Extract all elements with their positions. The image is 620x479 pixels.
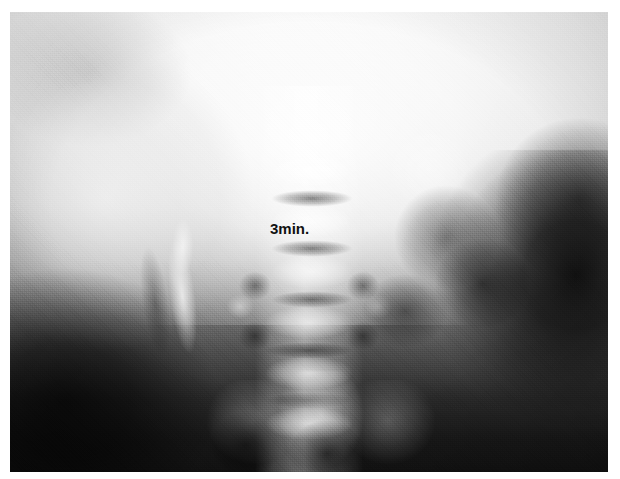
transverse-process bbox=[225, 293, 255, 321]
contrast-filled-collecting-system bbox=[145, 230, 215, 374]
renal-pelvis-contrast bbox=[165, 214, 201, 278]
sacrum-pelvis bbox=[273, 371, 369, 472]
pedicle-shadow bbox=[345, 320, 381, 352]
right-bowel-gas-shadow-upper bbox=[464, 104, 608, 288]
bowel-loop-shadow bbox=[387, 178, 507, 298]
disc-space bbox=[267, 237, 357, 260]
film-vignette bbox=[10, 12, 608, 472]
disc-space bbox=[267, 288, 357, 311]
lumbar-spine-column bbox=[255, 86, 363, 472]
iliac-bone-left bbox=[189, 380, 297, 472]
transverse-process bbox=[363, 293, 393, 321]
film-grain-texture-diagonal bbox=[10, 12, 608, 472]
disc-space bbox=[267, 187, 357, 210]
timing-annotation-label: 3min. bbox=[270, 220, 309, 238]
vertebral-body bbox=[261, 302, 357, 343]
film-grain-texture bbox=[10, 12, 608, 472]
left-lower-quadrant-gas bbox=[10, 251, 237, 472]
vertebral-body bbox=[267, 251, 357, 292]
upper-abdomen-bright-field bbox=[10, 12, 608, 325]
disc-space bbox=[261, 389, 357, 412]
right-bowel-gas-shadow bbox=[405, 150, 608, 435]
pedicle-shadow bbox=[345, 270, 381, 302]
pedicle-shadow bbox=[237, 270, 273, 302]
lower-bowel-gas-shadow bbox=[207, 408, 285, 472]
radiograph-page: 3min. bbox=[0, 0, 620, 479]
vertebral-body bbox=[267, 150, 357, 191]
radiograph-plate bbox=[10, 12, 608, 472]
iliac-bone-right bbox=[345, 380, 453, 472]
ureter-rim-shadow bbox=[121, 240, 179, 364]
disc-space bbox=[261, 339, 357, 362]
lower-bowel-gas-shadow bbox=[285, 417, 369, 472]
bowel-loop-shadow bbox=[357, 270, 453, 353]
vertebral-body bbox=[261, 352, 357, 393]
rib-edge-shadow bbox=[10, 12, 201, 150]
pedicle-shadow bbox=[237, 320, 273, 352]
base-tone-ramp bbox=[10, 12, 608, 472]
left-flank-soft-tissue bbox=[10, 40, 273, 371]
vertebral-body bbox=[261, 403, 357, 444]
right-renal-shadow bbox=[381, 122, 477, 214]
bowel-loop-shadow bbox=[429, 233, 537, 334]
